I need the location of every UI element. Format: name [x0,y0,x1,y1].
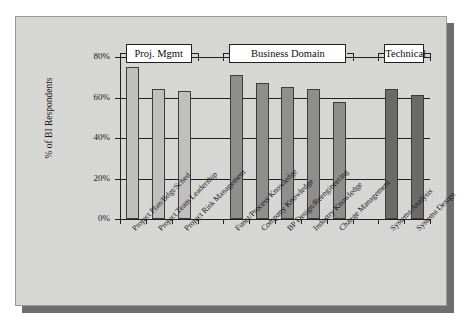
y-tick-label: 0% [70,214,110,223]
bar [126,67,139,219]
y-tick-label: 20% [70,174,110,183]
group-connector-vertical [430,53,431,61]
x-tick-mark [223,220,224,224]
group-connector-vertical [378,53,379,61]
y-tick-label: 80% [70,52,110,61]
chart-figure: % of BI Respondents 0%20%40%60%80% Proje… [0,0,470,331]
x-tick-mark [120,220,121,224]
group-connector-vertical [120,53,121,61]
group-label-box: Technical [384,44,424,63]
group-label-box: Proj. Mgmt [126,44,192,63]
bar [230,75,243,219]
y-tick-label: 60% [70,93,110,102]
x-tick-mark [378,220,379,224]
group-connector-vertical [223,53,224,61]
gridline [120,138,430,139]
chart-panel: % of BI Respondents 0%20%40%60%80% Proje… [15,16,447,306]
bar [385,89,398,219]
group-connector-vertical [198,53,199,61]
y-tick-label: 40% [70,133,110,142]
group-connector-vertical [353,53,354,61]
gridline [120,98,430,99]
group-label-box: Business Domain [229,44,346,63]
y-axis-title: % of BI Respondents [44,53,54,183]
